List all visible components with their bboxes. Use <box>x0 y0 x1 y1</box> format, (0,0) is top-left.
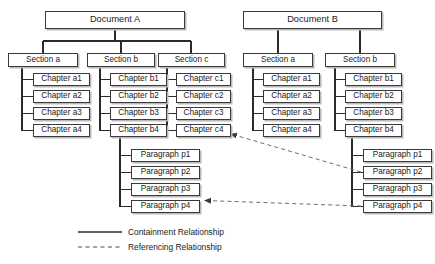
reference-edge-p2-to-chapter-c4 <box>231 134 361 172</box>
node-paragraph-p1-doc-b[interactable]: Paragraph p1 <box>363 149 432 162</box>
node-chapter-b4-doc-b[interactable]: Chapter b4 <box>345 124 402 137</box>
node-paragraph-p2-doc-b[interactable]: Paragraph p2 <box>363 166 432 179</box>
node-section-a-doc-b[interactable]: Section a <box>243 53 313 67</box>
node-chapter-a2-doc-b[interactable]: Chapter a2 <box>263 90 320 103</box>
node-section-a-doc-a[interactable]: Section a <box>8 53 78 67</box>
node-chapter-b1-doc-a[interactable]: Chapter b1 <box>110 73 167 86</box>
node-chapter-b2-doc-a[interactable]: Chapter b2 <box>110 90 167 103</box>
legend-referencing-label: Referencing Relationship <box>128 243 222 251</box>
node-chapter-a3-doc-a[interactable]: Chapter a3 <box>33 107 90 120</box>
node-paragraph-p2-doc-a[interactable]: Paragraph p2 <box>131 166 200 179</box>
node-chapter-a1-doc-b[interactable]: Chapter a1 <box>263 73 320 86</box>
node-chapter-a1-doc-a[interactable]: Chapter a1 <box>33 73 90 86</box>
legend-containment-label: Containment Relationship <box>128 228 224 236</box>
node-paragraph-p4-doc-b[interactable]: Paragraph p4 <box>363 200 432 213</box>
node-section-b-doc-a[interactable]: Section b <box>87 53 155 67</box>
node-chapter-a3-doc-b[interactable]: Chapter a3 <box>263 107 320 120</box>
node-paragraph-p3-doc-b[interactable]: Paragraph p3 <box>363 183 432 196</box>
node-document-b[interactable]: Document B <box>243 11 382 29</box>
node-chapter-b4-doc-a[interactable]: Chapter b4 <box>110 124 167 137</box>
node-paragraph-p3-doc-a[interactable]: Paragraph p3 <box>131 183 200 196</box>
node-chapter-c1-doc-a[interactable]: Chapter c1 <box>176 73 231 86</box>
node-chapter-b3-doc-a[interactable]: Chapter b3 <box>110 107 167 120</box>
node-chapter-a2-doc-a[interactable]: Chapter a2 <box>33 90 90 103</box>
legend-sample-lines <box>78 232 122 247</box>
document-structure-diagram: Document A Section a Section b Section c… <box>0 0 435 264</box>
node-chapter-b1-doc-b[interactable]: Chapter b1 <box>345 73 402 86</box>
node-chapter-b2-doc-b[interactable]: Chapter b2 <box>345 90 402 103</box>
reference-edge-p4-to-p4 <box>205 201 361 207</box>
node-chapter-b3-doc-b[interactable]: Chapter b3 <box>345 107 402 120</box>
node-chapter-c4-doc-a[interactable]: Chapter c4 <box>176 124 231 137</box>
node-document-a[interactable]: Document A <box>45 11 185 29</box>
node-paragraph-p4-doc-a[interactable]: Paragraph p4 <box>131 200 200 213</box>
node-section-c-doc-a[interactable]: Section c <box>158 53 225 67</box>
node-chapter-a4-doc-a[interactable]: Chapter a4 <box>33 124 90 137</box>
node-paragraph-p1-doc-a[interactable]: Paragraph p1 <box>131 149 200 162</box>
referencing-edges <box>205 134 361 206</box>
node-chapter-c2-doc-a[interactable]: Chapter c2 <box>176 90 231 103</box>
node-chapter-a4-doc-b[interactable]: Chapter a4 <box>263 124 320 137</box>
node-section-b-doc-b[interactable]: Section b <box>325 53 395 67</box>
node-chapter-c3-doc-a[interactable]: Chapter c3 <box>176 107 231 120</box>
